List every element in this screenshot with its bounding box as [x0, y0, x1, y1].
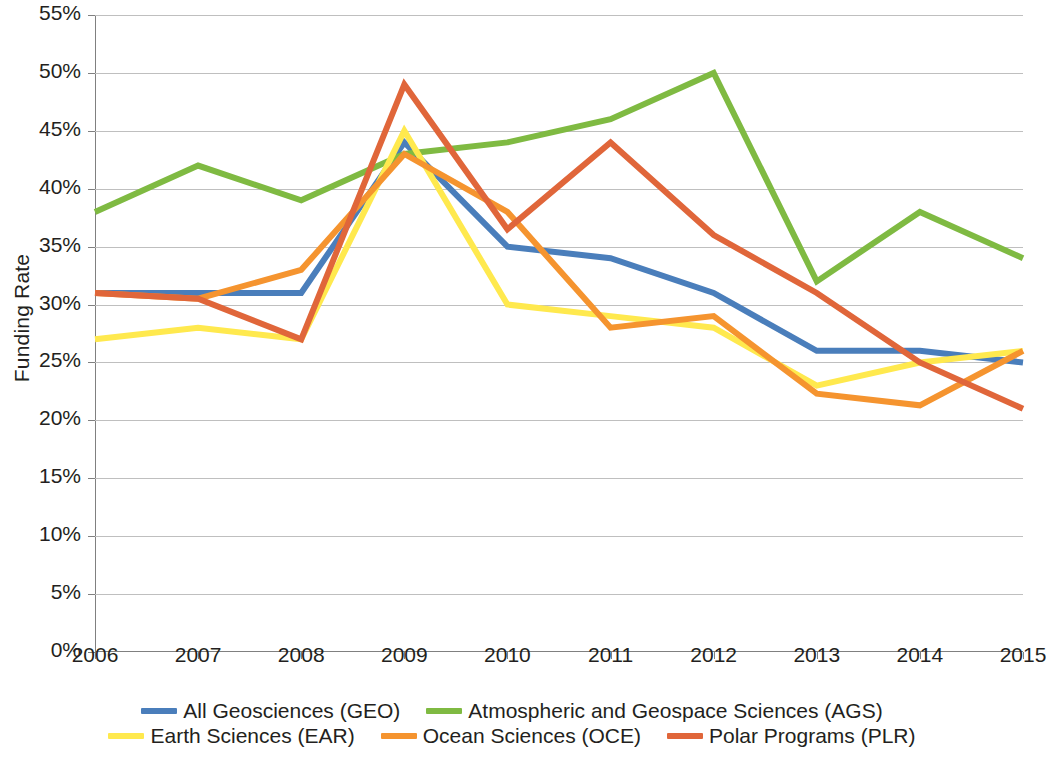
legend-color-swatch-icon [108, 733, 144, 739]
legend-color-swatch-icon [667, 733, 703, 739]
series-lines-group [95, 15, 1023, 652]
x-axis-tick-label: 2008 [278, 643, 325, 667]
y-axis-tick-mark [88, 362, 95, 363]
y-axis-tick-mark [88, 305, 95, 306]
legend-color-swatch-icon [381, 733, 417, 739]
y-axis-tick-label: 0% [0, 638, 81, 662]
y-axis-tick-mark [88, 536, 95, 537]
y-axis-tick-mark [88, 478, 95, 479]
x-axis-tick-label: 2011 [588, 643, 633, 667]
y-axis-tick-label: 10% [0, 522, 81, 546]
legend-row-1: All Geosciences (GEO)Atmospheric and Geo… [141, 700, 882, 721]
y-axis-tick-label: 50% [0, 59, 81, 83]
plot-area [95, 15, 1023, 652]
y-axis-tick-mark [88, 247, 95, 248]
legend-row-2: Earth Sciences (EAR)Ocean Sciences (OCE)… [108, 725, 915, 746]
x-axis-tick-label: 2007 [175, 643, 222, 667]
y-axis-tick-mark [88, 73, 95, 74]
y-axis-tick-label: 45% [0, 117, 81, 141]
legend-item[interactable]: Polar Programs (PLR) [667, 725, 916, 746]
y-axis-tick-mark [88, 189, 95, 190]
y-axis-tick-label: 15% [0, 464, 81, 488]
y-axis-tick-mark [88, 15, 95, 16]
x-axis-tick-label: 2009 [381, 643, 428, 667]
x-axis-tick-label: 2013 [793, 643, 840, 667]
legend-label: Ocean Sciences (OCE) [423, 725, 641, 746]
legend-item[interactable]: Atmospheric and Geospace Sciences (AGS) [426, 700, 882, 721]
y-axis-tick-label: 25% [0, 348, 81, 372]
legend-label: Earth Sciences (EAR) [150, 725, 354, 746]
x-axis-tick-label: 2014 [897, 643, 944, 667]
x-axis-tick-label: 2015 [1000, 643, 1046, 667]
chart-legend: All Geosciences (GEO)Atmospheric and Geo… [0, 700, 1024, 746]
legend-item[interactable]: Earth Sciences (EAR) [108, 725, 354, 746]
legend-label: All Geosciences (GEO) [183, 700, 400, 721]
y-axis-tick-mark [88, 131, 95, 132]
y-axis-tick-label: 35% [0, 233, 81, 257]
series-line-ear [95, 131, 1023, 386]
y-axis-tick-label: 55% [0, 1, 81, 25]
y-axis-tick-label: 40% [0, 175, 81, 199]
y-axis-tick-label: 30% [0, 291, 81, 315]
legend-label: Atmospheric and Geospace Sciences (AGS) [468, 700, 882, 721]
y-axis-tick-mark [88, 594, 95, 595]
legend-color-swatch-icon [141, 708, 177, 714]
legend-label: Polar Programs (PLR) [709, 725, 916, 746]
legend-item[interactable]: Ocean Sciences (OCE) [381, 725, 641, 746]
y-axis-tick-mark [88, 420, 95, 421]
x-axis-tick-label: 2010 [484, 643, 531, 667]
y-axis-tick-label: 20% [0, 406, 81, 430]
x-axis-tick-label: 2012 [690, 643, 737, 667]
legend-item[interactable]: All Geosciences (GEO) [141, 700, 400, 721]
legend-color-swatch-icon [426, 708, 462, 714]
y-axis-tick-label: 5% [0, 580, 81, 604]
x-axis-tick-label: 2006 [72, 643, 119, 667]
